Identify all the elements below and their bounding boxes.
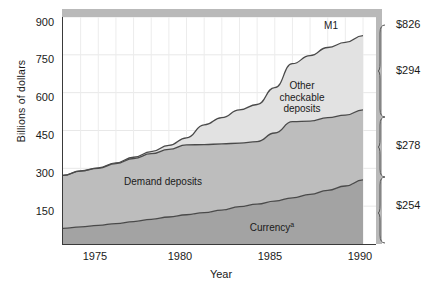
other-checkable-deposits-label: Other checkable deposits [271,80,333,115]
plot-area [62,17,376,245]
y-tick-450: 450 [20,129,54,141]
currency-label: Currencya [232,219,312,234]
bracket-group [378,17,394,244]
frame-shadow-top [62,9,379,17]
bracket-value-other-checkable: $294 [396,64,420,76]
y-tick-750: 750 [20,53,54,65]
x-tick-1975: 1975 [72,250,118,262]
chart-figure: Billions of dollars 900 750 600 450 300 … [0,0,442,292]
currency-footnote-marker: a [290,221,294,228]
other-label-line1: Other [271,80,333,92]
bracket-other-checkable [378,25,385,117]
demand-deposits-label: Demand deposits [108,176,218,188]
m1-label: M1 [316,20,346,32]
x-tick-1980: 1980 [157,250,203,262]
stacked-area-plot [63,17,376,244]
x-axis-title: Year [176,268,266,280]
y-tick-300: 300 [20,167,54,179]
bracket-currency [378,177,385,243]
bracket-value-total: $826 [396,18,420,30]
other-label-line3: deposits [271,103,333,115]
currency-label-text: Currency [250,222,291,233]
y-tick-900: 900 [20,16,54,28]
other-label-line2: checkable [271,92,333,104]
y-tick-600: 600 [20,91,54,103]
bracket-demand-deposits [378,117,385,177]
x-tick-1985: 1985 [247,250,293,262]
bracket-value-currency: $254 [396,199,420,211]
bracket-value-demand-deposits: $278 [396,139,420,151]
x-tick-1990: 1990 [337,250,383,262]
y-tick-150: 150 [20,205,54,217]
area-bands [63,36,363,244]
